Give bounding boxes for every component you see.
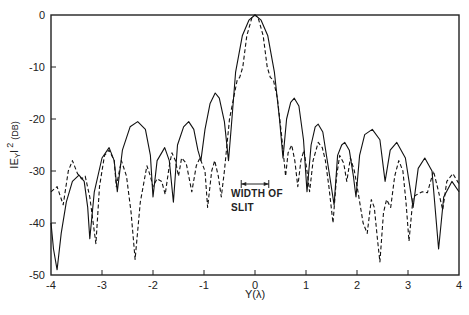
annotation-line-1: WIDTH OF bbox=[231, 188, 283, 199]
y-tick-label: -50 bbox=[29, 269, 45, 281]
x-tick-label: 2 bbox=[354, 279, 360, 291]
series-dashed-line bbox=[51, 15, 459, 262]
y-axis-title-main: IE bbox=[8, 158, 20, 168]
arrowhead-left-icon bbox=[241, 182, 246, 186]
x-tick-label: 1 bbox=[303, 279, 309, 291]
x-tick-label: -2 bbox=[148, 279, 158, 291]
x-tick-label: -1 bbox=[199, 279, 209, 291]
y-axis-title: IEYI2(DB) bbox=[5, 121, 22, 168]
x-tick-label: 3 bbox=[405, 279, 411, 291]
series-layer bbox=[51, 15, 459, 270]
width-of-slit-annotation: WIDTH OF SLIT bbox=[231, 180, 283, 213]
x-tick-label: 4 bbox=[456, 279, 462, 291]
annotation-line-2: SLIT bbox=[231, 202, 254, 213]
y-axis-title-sup: 2 bbox=[5, 143, 15, 148]
y-tick-label: 0 bbox=[39, 9, 45, 21]
y-tick-label: -30 bbox=[29, 165, 45, 177]
y-axis-title-bar: I bbox=[8, 150, 20, 153]
diffraction-pattern-chart: -4-3-2-101234 0-10-20-30-40-50 WIDTH OF … bbox=[0, 0, 469, 315]
x-tick-label: -3 bbox=[97, 279, 107, 291]
x-tick-label: -4 bbox=[46, 279, 56, 291]
y-tick-label: -40 bbox=[29, 217, 45, 229]
y-tick-label: -20 bbox=[29, 113, 45, 125]
y-tick-label: -10 bbox=[29, 61, 45, 73]
svg-text:IEYI2(DB): IEYI2(DB) bbox=[5, 121, 22, 168]
series-solid-line bbox=[51, 15, 459, 270]
x-axis-title: Y(λ) bbox=[245, 288, 265, 300]
y-axis-title-unit: (DB) bbox=[10, 121, 20, 140]
arrowhead-right-icon bbox=[264, 182, 269, 186]
y-axis-ticks: 0-10-20-30-40-50 bbox=[29, 9, 56, 281]
